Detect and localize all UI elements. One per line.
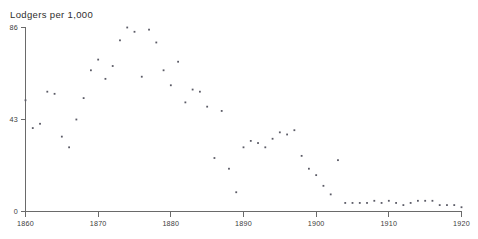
data-point bbox=[141, 76, 143, 78]
x-tick-label-1870: 1870 bbox=[90, 219, 107, 228]
data-point bbox=[359, 202, 361, 204]
data-point bbox=[39, 123, 41, 125]
y-axis: 04386 bbox=[10, 23, 26, 216]
data-point bbox=[25, 99, 27, 101]
data-point bbox=[388, 200, 390, 202]
data-point bbox=[264, 146, 266, 148]
data-point bbox=[75, 119, 77, 121]
data-point bbox=[366, 202, 368, 204]
figure-lodgers-per-1000: Lodgers per 1,000 04386 1860187018801890… bbox=[0, 0, 478, 239]
data-point bbox=[439, 204, 441, 206]
data-point bbox=[257, 142, 259, 144]
data-point bbox=[373, 200, 375, 202]
y-tick-label-86: 86 bbox=[10, 23, 18, 32]
data-point bbox=[61, 136, 63, 138]
data-point bbox=[293, 129, 295, 131]
x-tick-label-1880: 1880 bbox=[162, 219, 179, 228]
data-point bbox=[446, 204, 448, 206]
data-point bbox=[68, 146, 70, 148]
data-point bbox=[453, 204, 455, 206]
y-tick-group: 04386 bbox=[10, 23, 26, 216]
x-tick-label-1910: 1910 bbox=[380, 219, 397, 228]
data-point bbox=[323, 185, 325, 187]
data-point bbox=[395, 202, 397, 204]
data-point bbox=[286, 134, 288, 136]
figure-caption bbox=[14, 231, 434, 239]
data-point bbox=[83, 97, 85, 99]
scatter-plot: 04386 1860187018801890190019101920 bbox=[0, 0, 478, 239]
data-point bbox=[461, 206, 463, 208]
data-point bbox=[112, 65, 114, 67]
data-point bbox=[352, 202, 354, 204]
data-point bbox=[272, 138, 274, 140]
data-point bbox=[148, 29, 150, 31]
data-point bbox=[344, 202, 346, 204]
data-point bbox=[119, 39, 121, 41]
data-point bbox=[155, 42, 157, 44]
data-point bbox=[279, 131, 281, 133]
x-tick-group: 1860187018801890190019101920 bbox=[17, 212, 470, 229]
data-point bbox=[432, 200, 434, 202]
data-point-group bbox=[25, 27, 463, 209]
data-point bbox=[170, 84, 172, 86]
data-point bbox=[163, 69, 165, 71]
y-tick-label-43: 43 bbox=[10, 115, 18, 124]
x-axis: 1860187018801890190019101920 bbox=[17, 212, 470, 229]
x-tick-label-1900: 1900 bbox=[308, 219, 325, 228]
data-point bbox=[337, 159, 339, 161]
x-tick-label-1890: 1890 bbox=[235, 219, 252, 228]
data-point bbox=[32, 127, 34, 129]
data-point bbox=[243, 146, 245, 148]
data-point bbox=[54, 93, 56, 95]
y-tick-label-0: 0 bbox=[14, 207, 18, 216]
data-point bbox=[105, 78, 107, 80]
data-point bbox=[221, 110, 223, 112]
data-point bbox=[46, 91, 48, 93]
data-point bbox=[97, 59, 99, 61]
data-point bbox=[402, 204, 404, 206]
x-tick-label-1920: 1920 bbox=[453, 219, 470, 228]
data-point bbox=[228, 168, 230, 170]
data-point bbox=[90, 69, 92, 71]
data-point bbox=[206, 106, 208, 108]
data-point bbox=[417, 200, 419, 202]
data-point bbox=[199, 91, 201, 93]
data-point bbox=[235, 191, 237, 193]
data-point bbox=[301, 155, 303, 157]
data-point bbox=[381, 202, 383, 204]
data-point bbox=[184, 101, 186, 103]
data-point bbox=[214, 157, 216, 159]
data-point bbox=[134, 31, 136, 33]
data-point bbox=[192, 89, 194, 91]
data-point bbox=[410, 202, 412, 204]
data-point bbox=[330, 193, 332, 195]
data-point bbox=[315, 174, 317, 176]
data-point bbox=[250, 140, 252, 142]
data-point bbox=[308, 168, 310, 170]
x-tick-label-1860: 1860 bbox=[17, 219, 34, 228]
data-point bbox=[177, 61, 179, 63]
data-point bbox=[424, 200, 426, 202]
data-point bbox=[126, 27, 128, 29]
